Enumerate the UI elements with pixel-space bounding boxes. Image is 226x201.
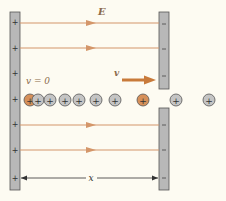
plus-sign-icon: +: [12, 44, 19, 53]
field-arrow-icon: [86, 20, 96, 26]
field-arrow-icon: [86, 45, 96, 51]
velocity-arrow-icon: [122, 76, 156, 85]
ion-highlighted: +: [137, 94, 149, 106]
ion: +: [59, 94, 71, 106]
ion: +: [32, 94, 44, 106]
svg-text:+: +: [34, 96, 42, 106]
plus-sign-icon: +: [12, 18, 19, 27]
svg-text:+: +: [61, 96, 69, 106]
plus-sign-icon: +: [12, 69, 19, 78]
left-plate-positive: + + + + + + +: [10, 12, 20, 190]
svg-text:+: +: [205, 96, 213, 106]
svg-text:+: +: [92, 96, 100, 106]
ion: +: [73, 94, 85, 106]
velocity-label: v: [114, 68, 120, 78]
right-plate-negative: [159, 12, 169, 190]
electric-field-diagram: + + + + + + + E v = 0 v: [0, 0, 226, 201]
plus-sign-icon: +: [12, 95, 19, 104]
svg-text:+: +: [111, 96, 119, 106]
field-lines: [20, 20, 159, 153]
ion-row: + + + + + + + +: [24, 94, 215, 106]
ion: +: [90, 94, 102, 106]
plus-sign-icon: +: [12, 174, 19, 183]
dimension-arrow-left-icon: [21, 176, 27, 181]
field-arrow-icon: [86, 122, 96, 128]
svg-text:+: +: [75, 96, 83, 106]
ion: +: [44, 94, 56, 106]
initial-velocity-label: v = 0: [26, 76, 50, 86]
ion: +: [203, 94, 215, 106]
svg-text:+: +: [46, 96, 54, 106]
plus-sign-icon: +: [12, 120, 19, 129]
field-label: E: [97, 6, 106, 17]
field-arrow-icon: [86, 147, 96, 153]
svg-text:+: +: [172, 96, 180, 106]
ion: +: [170, 94, 182, 106]
dimension-arrow-right-icon: [152, 176, 158, 181]
plus-sign-icon: +: [12, 146, 19, 155]
ion: +: [109, 94, 121, 106]
svg-text:+: +: [139, 96, 147, 106]
distance-label: x: [88, 173, 93, 183]
